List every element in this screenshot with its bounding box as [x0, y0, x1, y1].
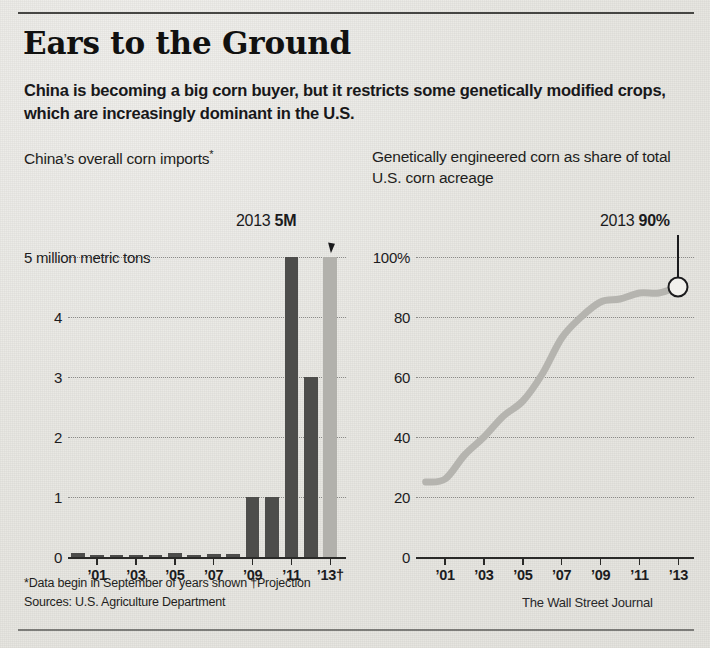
- publication-credit: The Wall Street Journal: [522, 595, 653, 610]
- bar-year-2009: [246, 497, 260, 557]
- left-chart-title-footnote-marker: *: [209, 148, 213, 160]
- bar-year-2011: [285, 257, 299, 557]
- footnote-sources: Sources: U.S. Agriculture Department: [24, 595, 225, 609]
- right-x-axis-label: ’07: [552, 567, 571, 583]
- left-y-axis-label: 0: [24, 549, 62, 566]
- right-x-axis-label: ’09: [591, 567, 610, 583]
- right-chart-callout: 2013 90%: [600, 212, 670, 230]
- bar-year-2000: [71, 553, 85, 557]
- right-callout-value: 90%: [639, 212, 670, 229]
- bar-year-2012: [304, 377, 318, 557]
- infographic-frame: Ears to the Ground China is becoming a b…: [14, 12, 698, 630]
- right-x-axis-label: ’13: [669, 567, 688, 583]
- right-x-tick: [444, 559, 445, 565]
- left-plot-area: 012345 million metric tons’01’03’05’07’0…: [24, 240, 354, 570]
- left-x-axis: [68, 557, 346, 559]
- right-x-tick: [561, 559, 562, 565]
- left-callout-value: 5M: [275, 212, 297, 229]
- page-subtitle: China is becoming a big corn buyer, but …: [24, 79, 684, 125]
- ge-corn-share-line-chart: 020406080100%’01’03’05’07’09’11’13: [372, 240, 702, 570]
- left-x-tick: [291, 559, 292, 565]
- left-chart-title-text: China’s overall corn imports: [24, 150, 209, 167]
- right-x-axis-label: ’11: [630, 567, 648, 583]
- ge-corn-share-line: [372, 240, 702, 570]
- left-x-tick: [135, 559, 136, 565]
- right-x-axis-label: ’03: [474, 567, 493, 583]
- bar-year-2005: [168, 553, 182, 557]
- top-divider: [18, 12, 694, 14]
- right-callout-leader-line: [677, 235, 679, 280]
- right-x-axis-label: ’05: [513, 567, 532, 583]
- left-y-axis-label: 2: [24, 429, 62, 446]
- right-x-tick: [483, 559, 484, 565]
- right-x-axis-label: ’01: [436, 567, 455, 583]
- bar-year-2010: [265, 497, 279, 557]
- china-corn-imports-bar-chart: 012345 million metric tons’01’03’05’07’0…: [24, 240, 354, 570]
- bar-year-2004: [149, 555, 163, 557]
- left-y-axis-label: 4: [24, 309, 62, 326]
- left-y-axis-label: 5 million metric tons: [24, 249, 150, 266]
- bar-year-2001: [90, 555, 104, 557]
- footnote-data-note: *Data begin in September of years shown …: [24, 576, 311, 590]
- left-x-axis-label: ’13†: [317, 567, 344, 583]
- right-x-tick: [522, 559, 523, 565]
- bar-year-2002: [110, 555, 124, 557]
- bottom-divider: [18, 629, 694, 631]
- left-x-tick: [174, 559, 175, 565]
- right-callout-year: 2013: [600, 212, 634, 229]
- right-x-tick: [678, 559, 679, 565]
- left-chart-title: China’s overall corn imports*: [24, 147, 354, 170]
- bar-projection-2013: [323, 257, 337, 557]
- left-gridline: [68, 317, 346, 318]
- right-chart-title: Genetically engineered corn as share of …: [372, 147, 692, 188]
- bar-year-2008: [226, 554, 240, 557]
- left-x-tick: [252, 559, 253, 565]
- bar-year-2007: [207, 554, 221, 557]
- bar-year-2003: [129, 555, 143, 557]
- left-y-axis-label: 1: [24, 489, 62, 506]
- left-y-axis-label: 3: [24, 369, 62, 386]
- left-chart-callout: 2013 5M: [236, 212, 296, 230]
- right-plot-area: 020406080100%’01’03’05’07’09’11’13: [372, 240, 702, 570]
- right-x-tick: [639, 559, 640, 565]
- right-x-tick: [600, 559, 601, 565]
- left-x-tick: [213, 559, 214, 565]
- left-callout-arrow-icon: [326, 242, 335, 253]
- left-x-tick: [96, 559, 97, 565]
- left-x-tick: [330, 559, 331, 565]
- right-endpoint-marker: [668, 277, 689, 298]
- page-title: Ears to the Ground: [23, 28, 351, 59]
- bar-year-2006: [187, 555, 201, 557]
- left-callout-year: 2013: [236, 212, 270, 229]
